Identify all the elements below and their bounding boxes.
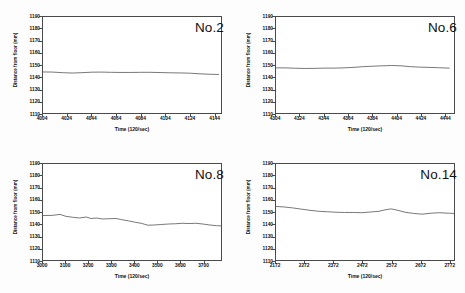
x-tick-mark <box>88 261 89 264</box>
y-tick-mark <box>39 102 42 103</box>
x-tick-mark <box>42 261 43 264</box>
y-tick-mark <box>39 77 42 78</box>
x-tick-mark <box>275 114 276 117</box>
y-tick-mark <box>272 77 275 78</box>
y-tick-mark <box>39 237 42 238</box>
y-tick-mark <box>272 28 275 29</box>
y-tick-mark <box>39 188 42 189</box>
x-tick-labels: 30003100320033003400350036003700 <box>42 263 222 271</box>
y-tick-labels: 111011201130114011501160117011801190 <box>18 147 40 293</box>
y-tick-mark <box>39 53 42 54</box>
x-tick-mark <box>116 114 117 117</box>
x-axis-label: Time (120/sec) <box>42 273 222 279</box>
y-tick-mark <box>39 163 42 164</box>
chart-panel-no14: Distance from floor (mm) 111011201130114… <box>233 147 465 293</box>
y-tick-mark <box>272 90 275 91</box>
data-series-line <box>43 214 221 226</box>
y-tick-mark <box>272 65 275 66</box>
y-tick-mark <box>272 102 275 103</box>
y-tick-mark <box>272 53 275 54</box>
x-tick-mark <box>421 114 422 117</box>
y-tick-labels: 111011201130114011501160117011801190 <box>18 0 40 146</box>
data-series-line <box>276 65 449 68</box>
x-tick-mark <box>372 114 373 117</box>
x-tick-mark <box>421 261 422 264</box>
y-tick-mark <box>39 65 42 66</box>
y-tick-labels: 111011201130114011501160117011801190 <box>251 147 273 293</box>
y-tick-labels: 111011201130114011501160117011801190 <box>251 0 273 146</box>
y-tick-mark <box>39 249 42 250</box>
y-tick-mark <box>39 212 42 213</box>
x-tick-mark <box>348 114 349 117</box>
y-tick-mark <box>39 175 42 176</box>
x-tick-mark <box>165 114 166 117</box>
x-tick-mark <box>333 261 334 264</box>
x-tick-mark <box>141 114 142 117</box>
y-tick-mark <box>39 90 42 91</box>
y-tick-mark <box>272 200 275 201</box>
data-series-line <box>43 72 219 75</box>
x-tick-mark <box>42 114 43 117</box>
x-tick-mark <box>111 261 112 264</box>
y-tick-mark <box>272 175 275 176</box>
y-tick-mark <box>39 41 42 42</box>
x-tick-mark <box>91 114 92 117</box>
y-tick-mark <box>39 224 42 225</box>
x-tick-mark <box>299 114 300 117</box>
panel-title: No.2 <box>195 20 224 35</box>
x-tick-mark <box>304 261 305 264</box>
y-tick-mark <box>272 237 275 238</box>
x-axis-label: Time (120/sec) <box>42 126 222 132</box>
x-tick-mark <box>190 114 191 117</box>
x-tick-mark <box>397 114 398 117</box>
y-tick-mark <box>39 28 42 29</box>
panel-title: No.6 <box>428 20 457 35</box>
x-tick-mark <box>362 261 363 264</box>
x-tick-mark <box>450 261 451 264</box>
y-tick-mark <box>272 249 275 250</box>
y-tick-mark <box>39 200 42 201</box>
chart-panel-no2: Distance from floor (mm) 111011201130114… <box>0 0 232 146</box>
x-tick-mark <box>215 114 216 117</box>
x-tick-mark <box>445 114 446 117</box>
y-tick-mark <box>272 16 275 17</box>
panel-title: No.8 <box>195 167 224 182</box>
y-tick-mark <box>39 16 42 17</box>
x-tick-labels: 2172227223722472257226722772 <box>275 263 455 271</box>
data-series-line <box>276 206 454 214</box>
x-tick-mark <box>324 114 325 117</box>
y-tick-mark <box>272 212 275 213</box>
x-tick-mark <box>392 261 393 264</box>
y-tick-mark <box>272 188 275 189</box>
x-tick-mark <box>204 261 205 264</box>
x-tick-mark <box>157 261 158 264</box>
y-tick-mark <box>272 224 275 225</box>
panel-title: No.14 <box>420 167 457 182</box>
x-tick-mark <box>134 261 135 264</box>
x-tick-labels: 40044024404440644084410441244144 <box>42 116 222 124</box>
x-axis-label: Time (120/sec) <box>275 126 455 132</box>
x-tick-mark <box>67 114 68 117</box>
y-tick-mark <box>272 41 275 42</box>
y-tick-mark <box>272 163 275 164</box>
x-tick-labels: 43044324434443644384440444244444 <box>275 116 455 124</box>
x-tick-mark <box>275 261 276 264</box>
chart-panel-no6: Distance from floor (mm) 111011201130114… <box>233 0 465 146</box>
x-tick-mark <box>65 261 66 264</box>
x-axis-label: Time (120/sec) <box>275 273 455 279</box>
chart-panel-no8: Distance from floor (mm) 111011201130114… <box>0 147 232 293</box>
x-tick-mark <box>180 261 181 264</box>
figure-panel-grid: Distance from floor (mm) 111011201130114… <box>0 0 465 293</box>
